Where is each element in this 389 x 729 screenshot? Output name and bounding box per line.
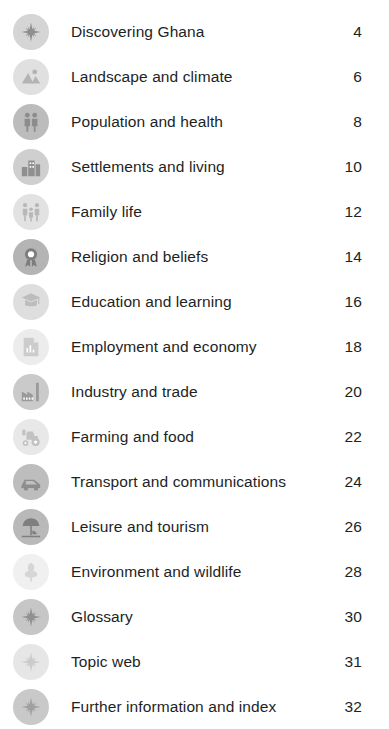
- toc-entry-page-number: 4: [340, 23, 362, 41]
- toc-entry[interactable]: Farming and food22: [0, 414, 389, 459]
- mountain-sun-icon: [13, 59, 49, 95]
- toc-entry[interactable]: Industry and trade20: [0, 369, 389, 414]
- toc-entry-label: Population and health: [71, 113, 340, 131]
- toc-entry-page-number: 18: [340, 338, 362, 356]
- factory-icon: [13, 374, 49, 410]
- toc-entry[interactable]: Glossary30: [0, 594, 389, 639]
- toc-entry-page-number: 26: [340, 518, 362, 536]
- toc-entry[interactable]: Further information and index32: [0, 684, 389, 729]
- toc-entry-page-number: 10: [340, 158, 362, 176]
- tractor-icon: [13, 419, 49, 455]
- compass-star-icon: [13, 14, 49, 50]
- toc-entry-label: Landscape and climate: [71, 68, 340, 86]
- toc-entry-label: Transport and communications: [71, 473, 340, 491]
- toc-entry-label: Topic web: [71, 653, 340, 671]
- family-group-icon: [13, 194, 49, 230]
- toc-entry[interactable]: Family life12: [0, 189, 389, 234]
- beach-umbrella-icon: [13, 509, 49, 545]
- toc-entry-page-number: 28: [340, 563, 362, 581]
- toc-entry[interactable]: Transport and communications24: [0, 459, 389, 504]
- toc-entry-label: Discovering Ghana: [71, 23, 340, 41]
- two-people-icon: [13, 104, 49, 140]
- toc-entry-page-number: 30: [340, 608, 362, 626]
- toc-entry-label: Industry and trade: [71, 383, 340, 401]
- toc-entry[interactable]: Environment and wildlife28: [0, 549, 389, 594]
- toc-entry-label: Farming and food: [71, 428, 340, 446]
- toc-entry[interactable]: Leisure and tourism26: [0, 504, 389, 549]
- toc-entry-page-number: 20: [340, 383, 362, 401]
- toc-entry[interactable]: Employment and economy18: [0, 324, 389, 369]
- toc-entry-page-number: 31: [340, 653, 362, 671]
- toc-entry[interactable]: Discovering Ghana4: [0, 9, 389, 54]
- toc-entry-page-number: 16: [340, 293, 362, 311]
- toc-entry[interactable]: Population and health8: [0, 99, 389, 144]
- table-of-contents-list: Discovering Ghana4Landscape and climate6…: [0, 0, 389, 729]
- toc-entry-page-number: 32: [340, 698, 362, 716]
- toc-entry-label: Leisure and tourism: [71, 518, 340, 536]
- toc-entry-label: Environment and wildlife: [71, 563, 340, 581]
- toc-entry-label: Religion and beliefs: [71, 248, 340, 266]
- buildings-icon: [13, 149, 49, 185]
- compass-star-icon: [13, 644, 49, 680]
- toc-entry[interactable]: Education and learning16: [0, 279, 389, 324]
- toc-entry-page-number: 6: [340, 68, 362, 86]
- toc-entry-label: Family life: [71, 203, 340, 221]
- toc-entry-page-number: 24: [340, 473, 362, 491]
- tree-icon: [13, 554, 49, 590]
- toc-entry-label: Education and learning: [71, 293, 340, 311]
- toc-entry-label: Glossary: [71, 608, 340, 626]
- toc-entry-label: Settlements and living: [71, 158, 340, 176]
- toc-entry-page-number: 22: [340, 428, 362, 446]
- toc-entry-label: Employment and economy: [71, 338, 340, 356]
- toc-entry-page-number: 14: [340, 248, 362, 266]
- rosette-emblem-icon: [13, 239, 49, 275]
- document-chart-icon: [13, 329, 49, 365]
- toc-entry-page-number: 12: [340, 203, 362, 221]
- compass-star-icon: [13, 689, 49, 725]
- compass-star-icon: [13, 599, 49, 635]
- graduation-book-icon: [13, 284, 49, 320]
- toc-entry[interactable]: Topic web31: [0, 639, 389, 684]
- toc-entry[interactable]: Landscape and climate6: [0, 54, 389, 99]
- toc-entry[interactable]: Settlements and living10: [0, 144, 389, 189]
- toc-entry-page-number: 8: [340, 113, 362, 131]
- toc-entry[interactable]: Religion and beliefs14: [0, 234, 389, 279]
- vehicle-icon: [13, 464, 49, 500]
- toc-entry-label: Further information and index: [71, 698, 340, 716]
